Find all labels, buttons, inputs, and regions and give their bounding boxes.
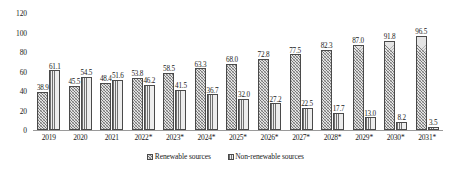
bar-chart: 020406080100120 38.961.145.554.548.451.6…	[0, 0, 451, 175]
bar-value-label: 87.0	[352, 38, 364, 45]
bar[interactable]: 45.5	[69, 86, 80, 130]
bar[interactable]: 17.7	[333, 113, 344, 130]
bar-value-label: 68.0	[226, 57, 238, 64]
bar-value-label: 36.7	[207, 88, 219, 95]
y-axis-tick: 120	[16, 9, 27, 18]
bar-value-label: 96.5	[415, 29, 427, 36]
bar-group: 68.032.0	[222, 13, 254, 130]
x-axis-tick: 2021	[96, 133, 128, 142]
bar[interactable]: 13.0	[365, 117, 376, 130]
bar[interactable]: 51.6	[112, 80, 123, 130]
y-axis-tick: 0	[23, 126, 27, 135]
bar-group: 82.317.7	[317, 13, 349, 130]
legend-item[interactable]: Renewable sources	[147, 152, 211, 161]
y-axis-tick: 40	[20, 87, 27, 96]
bar[interactable]: 58.5	[163, 73, 174, 130]
x-axis-tick: 2027*	[285, 133, 317, 142]
y-axis: 020406080100120	[0, 13, 31, 130]
bar-value-label: 72.8	[258, 52, 270, 59]
bar[interactable]: 53.8	[132, 78, 143, 130]
bar-groups: 38.961.145.554.548.451.653.846.258.541.5…	[33, 13, 443, 130]
bar-value-label: 91.8	[384, 34, 396, 41]
bar[interactable]: 27.2	[270, 103, 281, 130]
x-axis-tick: 2019	[33, 133, 65, 142]
bar-value-label: 3.5	[429, 120, 437, 127]
x-axis-tick: 2024*	[191, 133, 223, 142]
x-axis-labels: 2019202020212022*2023*2024*2025*2026*202…	[33, 133, 443, 142]
bar-value-label: 54.5	[80, 70, 92, 77]
bar[interactable]: 77.5	[290, 54, 301, 130]
bar[interactable]: 48.4	[100, 83, 111, 130]
legend-swatch-icon	[228, 154, 234, 160]
bar-value-label: 46.2	[143, 78, 155, 85]
bar-value-label: 48.4	[100, 76, 112, 83]
bar-value-label: 58.5	[163, 66, 175, 73]
bar-group: 91.88.2	[380, 13, 412, 130]
bar[interactable]: 54.5	[81, 77, 92, 130]
bar[interactable]: 38.9	[37, 92, 48, 130]
bar-value-label: 41.5	[175, 83, 187, 90]
bar-value-label: 27.2	[270, 97, 282, 104]
bar-group: 96.53.5	[411, 13, 443, 130]
bar-group: 72.827.2	[254, 13, 286, 130]
plot-area: 38.961.145.554.548.451.653.846.258.541.5…	[33, 13, 443, 130]
x-axis-tick: 2030*	[380, 133, 412, 142]
legend-label: Non-renewable sources	[235, 152, 304, 161]
x-axis-tick: 2020	[65, 133, 97, 142]
x-axis-tick: 2029*	[348, 133, 380, 142]
bar[interactable]: 8.2	[396, 122, 407, 130]
bar[interactable]: 41.5	[175, 90, 186, 130]
bar[interactable]: 22.5	[302, 108, 313, 130]
bar-value-label: 32.0	[238, 92, 250, 99]
bar[interactable]: 82.3	[321, 50, 332, 130]
legend-item[interactable]: Non-renewable sources	[228, 152, 304, 161]
bar[interactable]: 87.0	[353, 45, 364, 130]
x-axis-tick: 2022*	[128, 133, 160, 142]
x-axis-tick: 2031*	[411, 133, 443, 142]
bar[interactable]: 61.1	[49, 70, 60, 130]
bar-value-label: 8.2	[397, 115, 405, 122]
y-axis-tick: 60	[20, 67, 27, 76]
bar-value-label: 77.5	[289, 48, 301, 55]
bar-group: 45.554.5	[65, 13, 97, 130]
bar[interactable]: 32.0	[238, 99, 249, 130]
bar[interactable]: 96.5	[416, 36, 427, 130]
x-axis-line	[33, 130, 443, 131]
x-axis-tick: 2028*	[317, 133, 349, 142]
bar-group: 87.013.0	[348, 13, 380, 130]
y-axis-tick: 100	[16, 28, 27, 37]
bar[interactable]: 68.0	[226, 64, 237, 130]
bar-value-label: 38.9	[37, 85, 49, 92]
bar-group: 53.846.2	[128, 13, 160, 130]
bar-value-label: 17.7	[333, 106, 345, 113]
bar[interactable]: 91.8	[384, 41, 395, 131]
chart-legend: Renewable sourcesNon-renewable sources	[0, 152, 451, 161]
bar-value-label: 22.5	[301, 101, 313, 108]
bar[interactable]: 3.5	[428, 127, 439, 130]
legend-label: Renewable sources	[155, 152, 211, 161]
bar-group: 38.961.1	[33, 13, 65, 130]
bar-value-label: 51.6	[112, 73, 124, 80]
bar[interactable]: 46.2	[144, 85, 155, 130]
bar-value-label: 45.5	[68, 79, 80, 86]
x-axis-tick: 2023*	[159, 133, 191, 142]
bar-group: 63.336.7	[191, 13, 223, 130]
bar-value-label: 63.3	[195, 62, 207, 69]
y-axis-tick: 20	[20, 106, 27, 115]
bar-group: 77.522.5	[285, 13, 317, 130]
bar-value-label: 53.8	[131, 71, 143, 78]
x-axis-tick: 2025*	[222, 133, 254, 142]
x-axis-tick: 2026*	[254, 133, 286, 142]
bar[interactable]: 72.8	[258, 59, 269, 130]
bar-value-label: 61.1	[49, 64, 61, 71]
y-axis-tick: 80	[20, 48, 27, 57]
bar-value-label: 82.3	[321, 43, 333, 50]
bar[interactable]: 36.7	[207, 94, 218, 130]
bar[interactable]: 63.3	[195, 68, 206, 130]
bar-group: 58.541.5	[159, 13, 191, 130]
bar-value-label: 13.0	[364, 111, 376, 118]
bar-group: 48.451.6	[96, 13, 128, 130]
legend-swatch-icon	[147, 154, 153, 160]
